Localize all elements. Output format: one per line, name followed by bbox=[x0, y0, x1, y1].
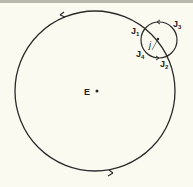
arrow-icon-bottom bbox=[108, 170, 113, 176]
deferent-circle bbox=[15, 11, 175, 171]
epicycle-circle bbox=[141, 22, 177, 58]
label-j: j bbox=[148, 40, 152, 50]
label-J4: J4 bbox=[136, 49, 145, 60]
label-E: E bbox=[84, 87, 90, 97]
arrow-icon-top bbox=[60, 12, 65, 17]
epicycle-diagram: E j J1 J2 J3 J4 bbox=[0, 0, 193, 187]
radius-line bbox=[152, 39, 158, 50]
label-J3: J3 bbox=[173, 19, 182, 30]
earth-point bbox=[96, 90, 99, 93]
label-J1: J1 bbox=[131, 26, 140, 37]
label-J2: J2 bbox=[160, 59, 169, 70]
